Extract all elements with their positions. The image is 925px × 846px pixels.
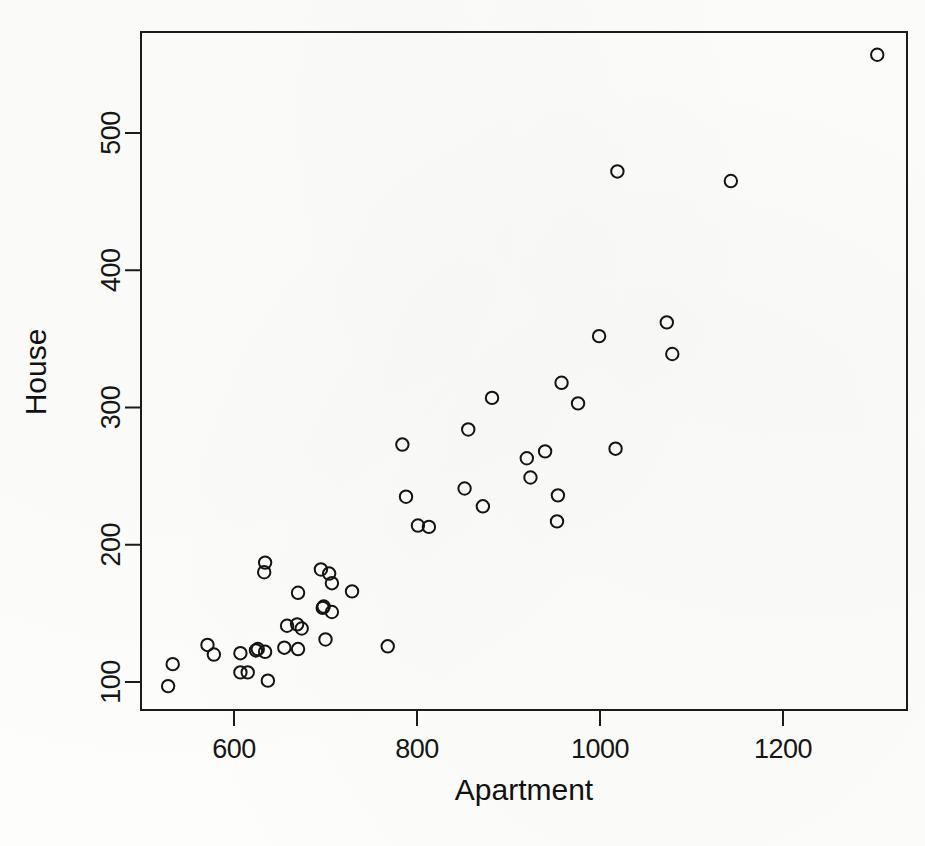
y-axis-ticks: 100200300400500: [96, 111, 141, 704]
data-point-marker: [593, 330, 605, 342]
x-axis-ticks: 60080010001200: [212, 710, 812, 764]
data-point-marker: [242, 666, 254, 678]
x-tick-label: 800: [395, 734, 439, 764]
data-point-marker: [462, 423, 474, 435]
data-point-layer: [162, 49, 884, 693]
y-tick-label: 400: [96, 248, 126, 292]
data-point-marker: [458, 482, 470, 494]
scatter-plot-figure: 60080010001200 100200300400500 Apartment…: [0, 0, 925, 846]
data-point-marker: [551, 515, 563, 527]
y-tick-label: 200: [96, 523, 126, 567]
data-point-marker: [539, 445, 551, 457]
data-point-marker: [666, 348, 678, 360]
y-tick-label: 500: [96, 111, 126, 155]
plot-frame: [141, 32, 907, 710]
data-point-marker: [234, 647, 246, 659]
data-point-marker: [609, 442, 621, 454]
data-point-marker: [572, 397, 584, 409]
data-point-marker: [524, 471, 536, 483]
x-tick-label: 600: [212, 734, 256, 764]
x-tick-label: 1000: [571, 734, 629, 764]
y-tick-label: 100: [96, 660, 126, 704]
data-point-marker: [166, 658, 178, 670]
data-point-marker: [725, 175, 737, 187]
data-point-marker: [278, 641, 290, 653]
data-point-marker: [661, 316, 673, 328]
data-point-marker: [162, 680, 174, 692]
data-point-marker: [292, 643, 304, 655]
data-point-marker: [319, 633, 331, 645]
data-point-marker: [400, 491, 412, 503]
data-point-marker: [346, 585, 358, 597]
data-point-marker: [871, 49, 883, 61]
data-point-marker: [262, 674, 274, 686]
x-tick-label: 1200: [754, 734, 812, 764]
data-point-marker: [521, 452, 533, 464]
data-point-marker: [396, 438, 408, 450]
data-point-marker: [611, 165, 623, 177]
plot-canvas: 60080010001200 100200300400500 Apartment…: [0, 0, 925, 846]
data-point-marker: [552, 489, 564, 501]
data-point-marker: [382, 640, 394, 652]
y-tick-label: 300: [96, 386, 126, 430]
data-point-marker: [555, 377, 567, 389]
x-axis-title: Apartment: [455, 773, 594, 806]
data-point-marker: [208, 648, 220, 660]
y-axis-title: House: [19, 329, 52, 416]
data-point-marker: [477, 500, 489, 512]
data-point-marker: [486, 392, 498, 404]
data-point-marker: [292, 587, 304, 599]
